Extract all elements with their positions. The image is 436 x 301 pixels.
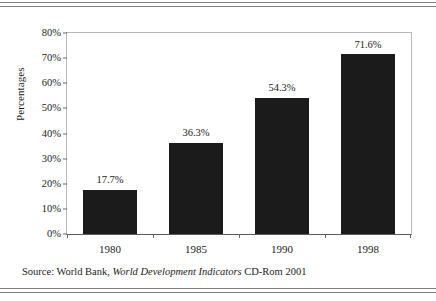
source-suffix: CD-Rom 2001 xyxy=(242,266,307,277)
bar-group: 71.6%1998 xyxy=(325,33,411,234)
bar-value-label: 71.6% xyxy=(354,40,381,51)
bar-value-label: 36.3% xyxy=(182,128,209,139)
bar-group: 36.3%1985 xyxy=(153,33,239,234)
bar-value-label: 54.3% xyxy=(268,83,295,94)
y-axis-title: Percentages xyxy=(14,107,26,121)
bar-value-label: 17.7% xyxy=(96,175,123,186)
x-axis-tick-label: 1990 xyxy=(271,244,293,255)
x-axis-tick-label: 1998 xyxy=(357,244,379,255)
bottom-rule-line-2 xyxy=(0,292,436,293)
source-publication-title: World Development Indicators xyxy=(113,266,242,277)
x-axis-tick-label: 1980 xyxy=(99,244,121,255)
x-axis-tick-mark xyxy=(153,234,154,238)
top-rule-line-2 xyxy=(0,6,436,7)
bar-group: 17.7%1980 xyxy=(67,33,153,234)
bar xyxy=(255,98,309,234)
bottom-double-rule xyxy=(0,288,436,293)
source-prefix: Source: World Bank, xyxy=(22,266,113,277)
figure-bar-chart: Percentages 0%10%20%30%40%50%60%70%80% 1… xyxy=(0,12,436,286)
bar-series: 17.7%198036.3%198554.3%199071.6%1998 xyxy=(67,33,411,234)
x-axis-tick-mark xyxy=(239,234,240,238)
source-note: Source: World Bank, World Development In… xyxy=(22,266,306,277)
x-axis-tick-label: 1985 xyxy=(185,244,207,255)
bar-group: 54.3%1990 xyxy=(239,33,325,234)
plot-area: 0%10%20%30%40%50%60%70%80% 17.7%198036.3… xyxy=(66,32,412,235)
top-double-rule xyxy=(0,2,436,7)
bar xyxy=(341,54,395,234)
x-axis-tick-mark xyxy=(325,234,326,238)
bar xyxy=(169,143,223,234)
x-axis-tick-mark xyxy=(410,234,411,238)
x-axis-tick-mark xyxy=(67,234,68,238)
bar xyxy=(83,190,137,234)
